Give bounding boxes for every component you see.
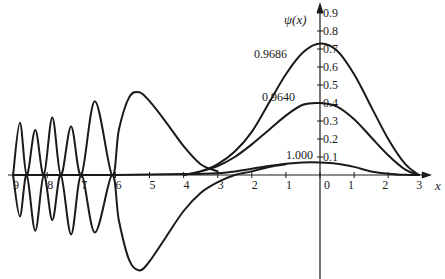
annotation-1-000: 1.000 [286,148,313,162]
y-tick-label: 0.2 [323,132,338,146]
x-tick-label: 5 [150,178,156,192]
x-tick-label: 1 [348,178,354,192]
curve-3 [13,92,218,176]
x-axis-arrow-icon [422,172,432,179]
y-axis-label: ψ(x) [284,12,307,27]
x-tick-label: 2 [252,178,258,192]
y-tick-label: 0.1 [323,150,338,164]
wavefunction-chart: 9876543211230 0.10.20.30.40.50.60.70.80.… [0,0,445,279]
x-tick-label: 2 [382,178,388,192]
x-axis-label: x [434,178,441,193]
annotation-0-9640: 0.9640 [262,90,295,104]
y-tick-label: 0.9 [323,6,338,20]
y-tick-label: 0.4 [323,96,338,110]
y-tick-label: 0.6 [323,60,338,74]
curves-group [13,44,419,271]
y-tick-label: 0.7 [323,42,338,56]
y-tick-label: 0.5 [323,78,338,92]
x-tick-label: 9 [13,178,19,192]
x-tick-label: 4 [184,178,190,192]
x-tick-label: 1 [286,178,292,192]
y-tick-label: 0.8 [323,24,338,38]
annotation-0-9686: 0.9686 [254,47,287,61]
x-tick-label: 7 [81,178,87,192]
x-tick-label: 6 [115,178,121,192]
x-tick-label: 8 [47,178,53,192]
x-tick-label: 3 [218,178,224,192]
y-tick-label: 0.3 [323,114,338,128]
x-tick-label: 3 [416,178,422,192]
x-tick-label-zero: 0 [324,178,330,192]
